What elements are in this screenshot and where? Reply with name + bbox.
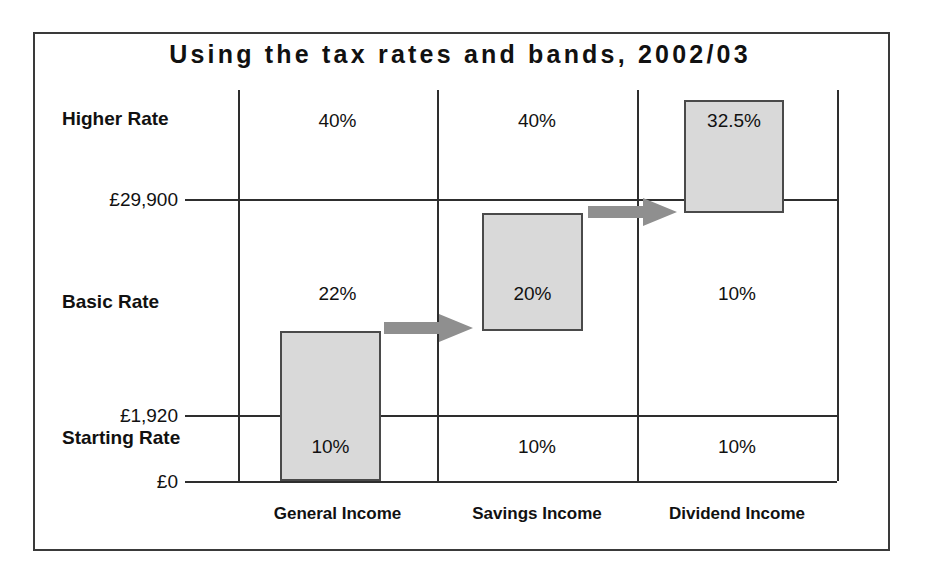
- cell-general-basic: 22%: [238, 283, 437, 305]
- highlight-block-savings: [482, 213, 583, 331]
- column-label-dividend-income: Dividend Income: [637, 504, 837, 524]
- vertical-gridline-2: [437, 90, 439, 481]
- tick-label-29900: £29,900: [83, 189, 178, 211]
- band-label-starting-rate: Starting Rate: [62, 427, 180, 449]
- chart-page: Using the tax rates and bands, 2002/03 H…: [0, 0, 926, 582]
- cell-savings-basic: 20%: [482, 283, 583, 305]
- column-label-savings-income: Savings Income: [437, 504, 637, 524]
- flow-arrow-savings-to-dividend: [588, 195, 678, 229]
- cell-savings-higher: 40%: [437, 110, 637, 132]
- tick-label-1920: £1,920: [83, 405, 178, 427]
- chart-title: Using the tax rates and bands, 2002/03: [60, 40, 860, 69]
- flow-arrow-general-to-savings: [384, 311, 474, 345]
- cell-dividend-starting: 10%: [637, 436, 837, 458]
- tick-label-zero: £0: [83, 471, 178, 493]
- cell-dividend-basic: 10%: [637, 283, 837, 305]
- vertical-gridline-4: [837, 90, 839, 481]
- cell-savings-starting: 10%: [437, 436, 637, 458]
- cell-dividend-higher: 32.5%: [684, 110, 784, 132]
- cell-general-higher: 40%: [238, 110, 437, 132]
- cell-general-starting: 10%: [280, 436, 381, 458]
- band-label-higher-rate: Higher Rate: [62, 108, 169, 130]
- band-label-basic-rate: Basic Rate: [62, 291, 159, 313]
- gridline-zero: [185, 481, 837, 483]
- column-label-general-income: General Income: [238, 504, 437, 524]
- highlight-block-general: [280, 331, 381, 481]
